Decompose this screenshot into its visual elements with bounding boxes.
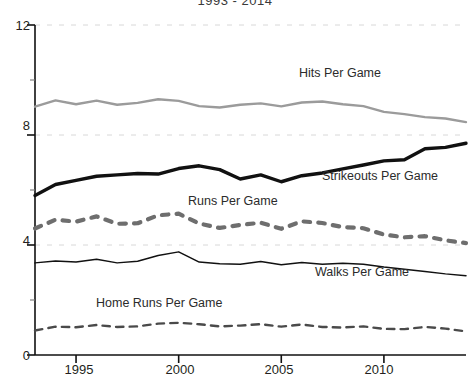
series-line-hits-per-game xyxy=(35,99,466,122)
y-tick-label-4: 4 xyxy=(4,233,30,248)
series-label-strikeouts-per-game: Strikeouts Per Game xyxy=(322,169,438,183)
series-label-runs-per-game: Runs Per Game xyxy=(188,194,278,208)
series-line-runs-per-game xyxy=(35,214,466,243)
y-tick-label-0: 0 xyxy=(4,348,30,363)
x-tick-label-2010: 2010 xyxy=(354,362,404,377)
series-line-home-runs-per-game xyxy=(35,323,466,332)
series-label-hits-per-game: Hits Per Game xyxy=(299,66,381,80)
x-tick-label-1995: 1995 xyxy=(54,362,104,377)
series-label-home-runs-per-game: Home Runs Per Game xyxy=(96,296,222,310)
x-tick-label-2000: 2000 xyxy=(155,362,205,377)
chart-container: 1993 - 2014 12 8 4 0 1995 2000 2005 2010… xyxy=(0,0,470,390)
y-tick-label-8: 8 xyxy=(4,118,30,133)
y-tick-label-12: 12 xyxy=(4,18,30,33)
x-tick-label-2005: 2005 xyxy=(254,362,304,377)
series-label-walks-per-game: Walks Per Game xyxy=(315,265,409,279)
